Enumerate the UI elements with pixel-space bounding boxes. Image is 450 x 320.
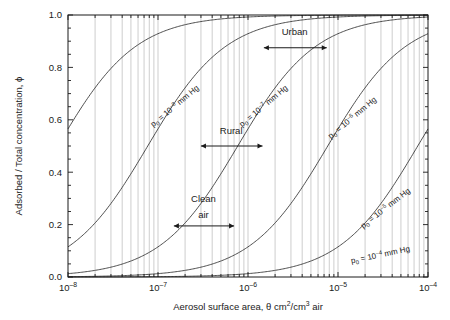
curve-labels: p0 = 10–8 mm Hgp0 = 10–7 mm Hgp0 = 10–6 …	[148, 83, 412, 267]
xtick-label-0: 10–8	[59, 281, 77, 293]
arrowhead-clean-air-0	[174, 223, 179, 228]
xtick-label-3: 10–5	[329, 281, 347, 293]
curve-label-4: p0 = 10–4 mm Hg	[350, 243, 411, 266]
ytick-label-1: 0.2	[49, 219, 62, 230]
annotation-label-clean-air: Clean	[191, 193, 216, 204]
arrowhead-clean-air-1	[229, 223, 234, 228]
x-axis-title: Aerosol surface area, θ cm2/cm3 air	[173, 300, 323, 312]
arrowhead-rural-1	[258, 143, 263, 148]
ytick-label-0: 0.0	[49, 271, 62, 282]
curve-label-3: p0 = 10–5 mm Hg	[358, 185, 412, 231]
annotation-label2-clean-air: air	[198, 209, 209, 220]
arrowhead-rural-0	[201, 143, 206, 148]
adsorption-isotherm-chart: CleanairRuralUrban 10–810–710–610–510–40…	[0, 0, 450, 320]
figure-container: CleanairRuralUrban 10–810–710–610–510–40…	[0, 0, 450, 320]
annotation-label-rural: Rural	[220, 125, 243, 136]
arrowhead-urban-0	[264, 45, 269, 50]
ytick-label-4: 0.8	[49, 62, 62, 73]
xtick-label-1: 10–7	[149, 281, 167, 293]
y-axis-title: Adsorbed / Total concentration, ϕ	[13, 77, 24, 216]
ytick-label-2: 0.4	[49, 167, 62, 178]
curve-label-0: p0 = 10–8 mm Hg	[148, 83, 201, 130]
curve-label-1: p0 = 10–7 mm Hg	[237, 83, 290, 130]
xtick-label-2: 10–6	[239, 281, 257, 293]
annotation-label-urban: Urban	[282, 26, 308, 37]
ytick-label-5: 1.0	[49, 9, 62, 20]
xtick-label-4: 10–4	[419, 281, 437, 293]
ytick-label-3: 0.6	[49, 114, 62, 125]
